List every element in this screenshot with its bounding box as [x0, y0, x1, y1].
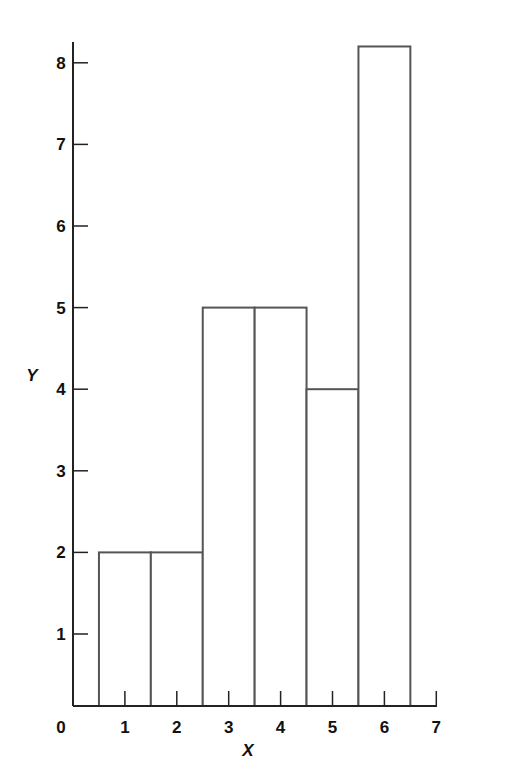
y-tick-label: 1: [56, 625, 65, 644]
x-axis-label: X: [241, 741, 255, 760]
x-tick-label: 3: [224, 718, 233, 737]
y-tick-label: 6: [56, 217, 65, 236]
y-tick-label: 2: [56, 543, 65, 562]
bars-group: [99, 46, 410, 706]
bar-6: [358, 46, 410, 706]
origin-label: 0: [56, 718, 65, 737]
x-tick-label: 7: [432, 718, 441, 737]
bar-2: [151, 552, 203, 706]
bar-3: [203, 308, 255, 706]
x-tick-label: 6: [380, 718, 389, 737]
x-tick-label: 1: [120, 718, 129, 737]
y-tick-label: 7: [56, 135, 65, 154]
x-tick-label: 4: [276, 718, 286, 737]
y-axis-label: Y: [26, 366, 39, 385]
x-tick-label: 2: [172, 718, 181, 737]
y-tick-label: 8: [56, 54, 65, 73]
histogram-chart: 12345678 1234567 0 X Y: [0, 0, 512, 777]
y-tick-label: 3: [56, 462, 65, 481]
bar-1: [99, 552, 151, 706]
y-tick-label: 5: [56, 299, 65, 318]
x-tick-label: 5: [328, 718, 337, 737]
bar-5: [307, 389, 359, 706]
bar-4: [255, 308, 307, 706]
y-tick-label: 4: [56, 380, 66, 399]
